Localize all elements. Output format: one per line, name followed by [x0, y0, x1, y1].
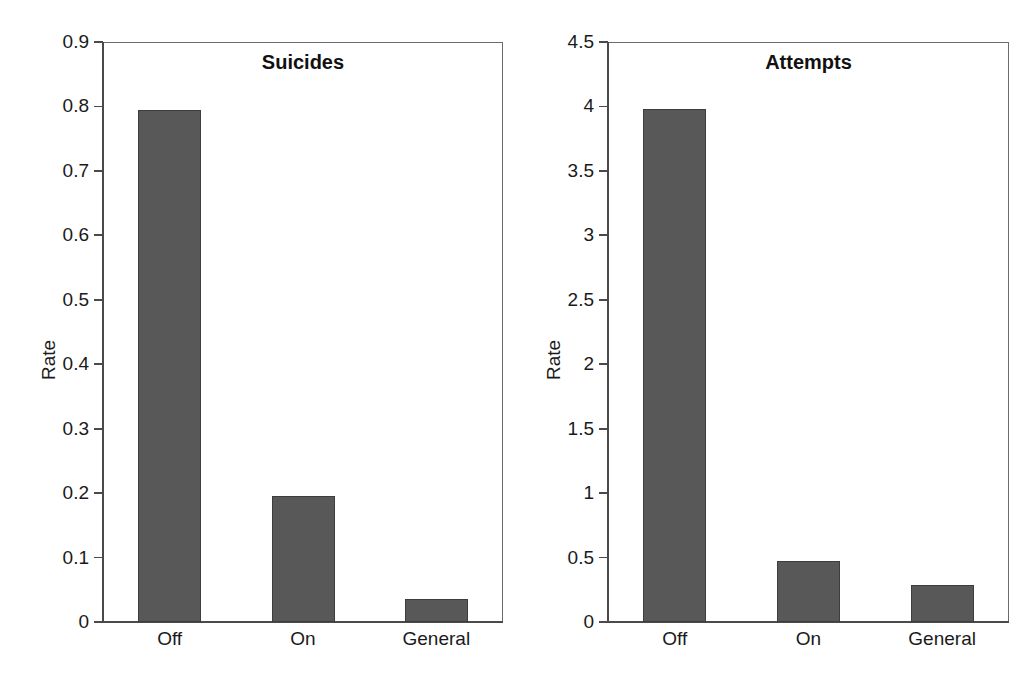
y-tick-label-attempts-2: 1	[583, 483, 594, 502]
y-tick-label-attempts-4: 2	[583, 354, 594, 373]
y-tick-attempts-7	[599, 170, 608, 172]
y-tick-attempts-2	[599, 492, 608, 494]
y-tick-suicides-7	[94, 170, 103, 172]
y-tick-attempts-3	[599, 428, 608, 430]
y-tick-label-attempts-8: 4	[583, 96, 594, 115]
y-tick-suicides-6	[94, 234, 103, 236]
y-tick-suicides-0	[94, 621, 103, 623]
bar-attempts-on	[777, 561, 840, 622]
y-tick-label-suicides-5: 0.5	[63, 290, 89, 309]
y-tick-label-suicides-9: 0.9	[63, 32, 89, 51]
y-tick-attempts-0	[599, 621, 608, 623]
y-axis-line-suicides	[102, 42, 104, 623]
x-label-attempts-general: General	[872, 628, 1012, 650]
figure-two-bar-charts: Suicides Rate 00.10.20.30.40.50.60.70.80…	[0, 0, 1034, 690]
y-tick-attempts-5	[599, 299, 608, 301]
y-tick-suicides-9	[94, 41, 103, 43]
y-tick-label-attempts-1: 0.5	[568, 548, 594, 567]
y-tick-suicides-8	[94, 106, 103, 108]
y-tick-suicides-2	[94, 492, 103, 494]
y-tick-label-suicides-3: 0.3	[63, 419, 89, 438]
y-tick-label-attempts-7: 3.5	[568, 161, 594, 180]
y-tick-label-suicides-0: 0	[78, 612, 89, 631]
chart-title-attempts: Attempts	[608, 51, 1009, 74]
y-tick-label-suicides-7: 0.7	[63, 161, 89, 180]
y-tick-attempts-4	[599, 363, 608, 365]
y-axis-title-attempts: Rate	[543, 340, 565, 380]
x-label-suicides-general: General	[366, 628, 506, 650]
chart-panel-suicides: Suicides Rate 00.10.20.30.40.50.60.70.80…	[0, 0, 517, 690]
y-tick-suicides-4	[94, 363, 103, 365]
y-tick-suicides-5	[94, 299, 103, 301]
bar-attempts-general	[911, 585, 974, 622]
y-tick-label-suicides-1: 0.1	[63, 548, 89, 567]
y-tick-attempts-8	[599, 106, 608, 108]
y-tick-label-attempts-5: 2.5	[568, 290, 594, 309]
y-tick-attempts-1	[599, 557, 608, 559]
y-tick-label-attempts-0: 0	[583, 612, 594, 631]
bar-attempts-off	[643, 109, 706, 622]
y-tick-suicides-3	[94, 428, 103, 430]
y-tick-suicides-1	[94, 557, 103, 559]
y-axis-line-attempts	[607, 42, 609, 623]
y-tick-label-suicides-6: 0.6	[63, 225, 89, 244]
y-tick-attempts-6	[599, 234, 608, 236]
y-tick-label-attempts-3: 1.5	[568, 419, 594, 438]
x-label-attempts-on: On	[739, 628, 879, 650]
chart-panel-attempts: Attempts Rate 00.511.522.533.544.5 OffOn…	[517, 0, 1034, 690]
x-label-suicides-off: Off	[100, 628, 240, 650]
x-label-attempts-off: Off	[605, 628, 745, 650]
y-tick-label-suicides-2: 0.2	[63, 483, 89, 502]
x-label-suicides-on: On	[233, 628, 373, 650]
y-tick-label-suicides-4: 0.4	[63, 354, 89, 373]
y-tick-label-attempts-6: 3	[583, 225, 594, 244]
y-tick-label-suicides-8: 0.8	[63, 96, 89, 115]
y-tick-label-attempts-9: 4.5	[568, 32, 594, 51]
chart-title-suicides: Suicides	[103, 51, 503, 74]
bar-suicides-on	[272, 496, 335, 622]
y-tick-attempts-9	[599, 41, 608, 43]
bar-suicides-general	[405, 599, 468, 622]
bar-suicides-off	[138, 110, 201, 622]
y-axis-title-suicides: Rate	[38, 340, 60, 380]
